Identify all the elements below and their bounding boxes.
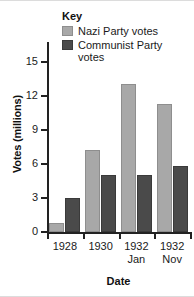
bar bbox=[157, 104, 172, 232]
y-tick-label: 0 bbox=[14, 225, 38, 238]
bar bbox=[173, 166, 188, 232]
x-axis-title: Date bbox=[47, 275, 190, 287]
x-axis-tick-labels: 192819301932Jan1932Nov bbox=[47, 240, 194, 274]
x-tick-label: 1932Jan bbox=[116, 240, 156, 266]
legend-label-nazi: Nazi Party votes bbox=[78, 25, 158, 38]
bars-layer bbox=[47, 40, 190, 232]
x-axis-separator bbox=[83, 232, 85, 239]
x-axis-separator bbox=[154, 232, 156, 239]
y-axis-title: Votes (millions) bbox=[11, 79, 23, 189]
bar-group bbox=[119, 40, 155, 232]
bar bbox=[137, 175, 152, 232]
y-tick-label: 15 bbox=[14, 55, 38, 68]
x-axis-separator bbox=[119, 232, 121, 239]
top-divider bbox=[0, 0, 194, 1]
bar bbox=[121, 84, 136, 232]
bar bbox=[49, 223, 64, 232]
bar-chart: Key Nazi Party votes Communist Party vot… bbox=[0, 0, 194, 297]
bar bbox=[65, 198, 80, 232]
x-tick-label: 1932Nov bbox=[152, 240, 192, 266]
x-axis-separator bbox=[190, 232, 192, 239]
x-axis-separator bbox=[47, 232, 49, 239]
bar-group bbox=[47, 40, 83, 232]
legend-item-nazi: Nazi Party votes bbox=[62, 25, 190, 38]
bar-group bbox=[154, 40, 190, 232]
x-tick-label: 1928 bbox=[45, 240, 85, 253]
legend-swatch-nazi-icon bbox=[62, 26, 73, 36]
bar bbox=[85, 150, 100, 232]
bar bbox=[101, 175, 116, 232]
x-tick-label: 1930 bbox=[81, 240, 121, 253]
bar-group bbox=[83, 40, 119, 232]
legend-title: Key bbox=[62, 10, 190, 22]
y-tick-label: 3 bbox=[14, 191, 38, 204]
